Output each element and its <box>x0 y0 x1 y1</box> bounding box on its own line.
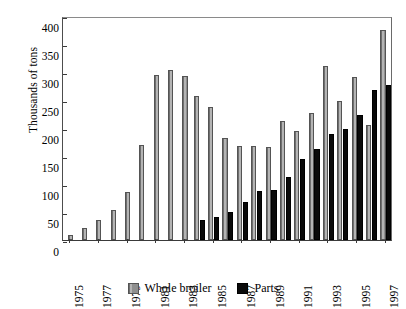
bar-whole-broiler-1995 <box>352 77 357 240</box>
year-group-1975 <box>63 18 77 240</box>
year-group-1991 <box>293 18 307 240</box>
bar-whole-broiler-1986 <box>222 138 227 240</box>
legend-item-parts: Parts <box>237 282 278 294</box>
year-group-1981 <box>149 18 163 240</box>
bar-parts-1987 <box>243 202 248 240</box>
bar-whole-broiler-1976 <box>82 228 87 240</box>
y-tick-label: 300 <box>42 79 63 91</box>
y-tick-label: 150 <box>42 163 63 175</box>
x-tick-mark <box>184 239 185 243</box>
bar-parts-1984 <box>200 220 205 240</box>
bar-parts-1985 <box>214 217 219 240</box>
chart-legend: Whole broiler Parts <box>0 282 406 294</box>
year-group-1979 <box>120 18 134 240</box>
x-tick-mark <box>241 239 242 243</box>
y-tick-label: 100 <box>42 191 63 203</box>
bar-whole-broiler-1989 <box>266 147 271 240</box>
bar-whole-broiler-1996 <box>366 125 371 240</box>
bar-parts-1991 <box>300 159 305 240</box>
bar-whole-broiler-1979 <box>125 192 130 240</box>
plot-area: 050100150200250300350400 <box>62 17 392 241</box>
bar-whole-broiler-1997 <box>380 30 385 240</box>
y-tick-label: 250 <box>42 107 63 119</box>
year-group-1994 <box>336 18 350 240</box>
year-group-1977 <box>92 18 106 240</box>
legend-label-whole-broiler: Whole broiler <box>145 282 212 294</box>
x-tick-mark <box>385 239 386 243</box>
bar-parts-1997 <box>386 85 391 240</box>
black-swatch-icon <box>237 283 248 294</box>
legend-item-whole-broiler: Whole broiler <box>128 282 212 294</box>
bar-parts-1989 <box>271 190 276 240</box>
x-tick-mark <box>213 239 214 243</box>
y-axis-title: Thousands of tons <box>27 10 39 170</box>
year-group-1984 <box>192 18 206 240</box>
bar-whole-broiler-1993 <box>323 66 328 240</box>
bar-parts-1990 <box>286 177 291 240</box>
bar-whole-broiler-1992 <box>309 113 314 240</box>
year-group-1996 <box>364 18 378 240</box>
bar-whole-broiler-1984 <box>194 96 199 240</box>
bar-whole-broiler-1994 <box>337 101 342 240</box>
year-group-1976 <box>77 18 91 240</box>
bar-whole-broiler-1987 <box>237 146 242 240</box>
bar-whole-broiler-1981 <box>154 75 159 240</box>
x-tick-mark <box>299 239 300 243</box>
bar-parts-1992 <box>314 149 319 240</box>
gray-swatch-icon <box>128 283 139 294</box>
year-group-1997 <box>379 18 393 240</box>
y-tick-label: 200 <box>42 135 63 147</box>
bar-parts-1986 <box>228 212 233 240</box>
x-tick-mark <box>155 239 156 243</box>
bar-parts-1996 <box>372 90 377 240</box>
year-group-1985 <box>206 18 220 240</box>
year-group-1989 <box>264 18 278 240</box>
year-group-1986 <box>221 18 235 240</box>
x-tick-mark <box>270 239 271 243</box>
year-group-1988 <box>250 18 264 240</box>
bar-whole-broiler-1988 <box>251 146 256 240</box>
x-tick-mark <box>356 239 357 243</box>
x-tick-mark <box>327 239 328 243</box>
year-group-1993 <box>321 18 335 240</box>
year-group-1982 <box>163 18 177 240</box>
year-group-1978 <box>106 18 120 240</box>
bar-parts-1994 <box>343 129 348 240</box>
x-tick-mark <box>98 239 99 243</box>
bar-whole-broiler-1990 <box>280 121 285 240</box>
x-tick-mark <box>69 239 70 243</box>
year-group-1990 <box>278 18 292 240</box>
bar-whole-broiler-1982 <box>168 70 173 240</box>
bar-whole-broiler-1983 <box>182 76 187 240</box>
bar-parts-1995 <box>357 115 362 240</box>
bar-whole-broiler-1980 <box>139 145 144 240</box>
year-group-1980 <box>135 18 149 240</box>
bar-whole-broiler-1977 <box>96 220 101 240</box>
year-group-1995 <box>350 18 364 240</box>
year-group-1992 <box>307 18 321 240</box>
y-tick-label: 50 <box>48 219 64 231</box>
bar-chart: Thousands of tons 0501001502002503003504… <box>0 0 406 309</box>
bar-whole-broiler-1978 <box>111 210 116 240</box>
y-tick-label: 350 <box>42 51 63 63</box>
x-tick-mark <box>127 239 128 243</box>
bar-whole-broiler-1991 <box>294 131 299 240</box>
year-group-1987 <box>235 18 249 240</box>
legend-label-parts: Parts <box>254 282 278 294</box>
bar-whole-broiler-1985 <box>208 107 213 240</box>
bar-parts-1988 <box>257 191 262 240</box>
bar-parts-1993 <box>329 134 334 240</box>
bars-layer <box>63 18 391 240</box>
year-group-1983 <box>178 18 192 240</box>
y-tick-label: 400 <box>42 23 63 35</box>
